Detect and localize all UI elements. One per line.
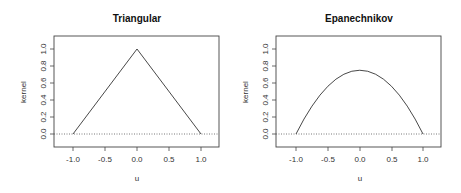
y-tick-label: 0.6 [261, 77, 270, 89]
y-tick-label: 0.4 [39, 94, 48, 106]
x-axis-label: u [135, 174, 139, 183]
y-tick-label: 1.0 [261, 43, 270, 55]
y-axis: 0.0 0.2 0.4 0.6 0.8 1.0 kernel [19, 43, 54, 140]
plot-frame [54, 36, 219, 147]
x-tick-label: 1.0 [417, 155, 429, 164]
epanechnikov-panel: Epanechnikov 0.0 0.2 0.4 0.6 0.8 1.0 ker… [241, 13, 441, 183]
triangular-kernel-curve [73, 49, 201, 134]
y-tick-label: 1.0 [39, 43, 48, 55]
triangular-panel: Triangular 0.0 0.2 0.4 0.6 0.8 1.0 kerne… [19, 13, 219, 183]
x-axis: -1.0 -0.5 0.0 0.5 1.0 u [66, 147, 207, 183]
y-tick-label: 0.8 [261, 60, 270, 72]
y-tick-label: 0.0 [261, 128, 270, 140]
x-tick-label: 0.5 [163, 155, 175, 164]
chart-title: Epanechnikov [325, 13, 393, 24]
y-axis: 0.0 0.2 0.4 0.6 0.8 1.0 kernel [241, 43, 276, 140]
x-tick-label: -0.5 [321, 155, 335, 164]
epanechnikov-kernel-curve [296, 70, 423, 134]
y-tick-label: 0.8 [39, 60, 48, 72]
y-tick-label: 0.6 [39, 77, 48, 89]
kernel-plots: Triangular 0.0 0.2 0.4 0.6 0.8 1.0 kerne… [0, 0, 461, 193]
y-tick-label: 0.2 [39, 111, 48, 123]
x-tick-label: -1.0 [66, 155, 80, 164]
x-axis-label: u [358, 174, 362, 183]
y-axis-label: kernel [241, 81, 250, 103]
y-tick-label: 0.0 [39, 128, 48, 140]
plot-frame [276, 36, 441, 147]
y-tick-label: 0.2 [261, 111, 270, 123]
x-tick-label: 0.0 [131, 155, 143, 164]
x-tick-label: -0.5 [98, 155, 112, 164]
x-axis: -1.0 -0.5 0.0 0.5 1.0 u [289, 147, 429, 183]
x-tick-label: 1.0 [195, 155, 207, 164]
y-tick-label: 0.4 [261, 94, 270, 106]
x-tick-label: 0.0 [354, 155, 366, 164]
x-tick-label: 0.5 [386, 155, 398, 164]
y-axis-label: kernel [19, 81, 28, 103]
x-tick-label: -1.0 [289, 155, 303, 164]
chart-title: Triangular [113, 13, 161, 24]
